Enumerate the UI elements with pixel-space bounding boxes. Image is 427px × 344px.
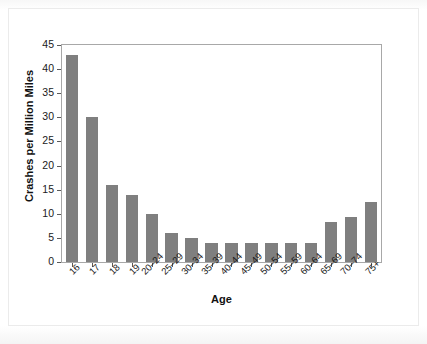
bar-slot [62,45,82,262]
bar-slot [241,45,261,262]
y-tick-label: 25 [42,134,54,146]
bar [106,185,118,262]
y-axis-ticks: 051015202530354045 [0,44,61,263]
bar-slot [142,45,162,262]
x-tick-label: 18 [107,262,122,277]
y-tick-label: 15 [42,183,54,195]
bar [126,195,138,263]
bar-chart: Crashes per Million Miles 05101520253035… [0,0,427,344]
bar-slot [222,45,242,262]
chart-page: Crashes per Million Miles 05101520253035… [0,0,427,344]
x-tick-label: 17 [87,262,102,277]
bar [365,202,377,262]
bar-slot [281,45,301,262]
y-tick-label: 20 [42,159,54,171]
x-tick-label: 16 [67,262,82,277]
y-tick-label: 45 [42,38,54,50]
bar [86,117,98,262]
bar-slot [321,45,341,262]
y-tick-label: 5 [48,231,54,243]
bar-slot [102,45,122,262]
x-axis-title: Age [62,293,381,305]
bar-slot [301,45,321,262]
bar-slot [122,45,142,262]
y-tick-label: 40 [42,62,54,74]
y-tick-label: 10 [42,207,54,219]
bar-slot [361,45,381,262]
y-tick-label: 0 [48,255,54,267]
y-tick-label: 35 [42,86,54,98]
bar-slot [162,45,182,262]
bar-slot [261,45,281,262]
y-tick-label: 30 [42,110,54,122]
bar-slot [341,45,361,262]
bar [66,55,78,262]
bar-series [62,45,381,262]
bar-slot [202,45,222,262]
bar-slot [82,45,102,262]
bar-slot [182,45,202,262]
